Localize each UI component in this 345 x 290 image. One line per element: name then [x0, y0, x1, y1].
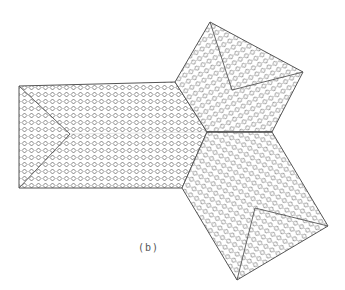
- roof-diagram: [0, 0, 345, 290]
- left-wing: [19, 82, 207, 188]
- bottom-wing: [182, 132, 328, 280]
- figure-label: (b): [138, 242, 159, 253]
